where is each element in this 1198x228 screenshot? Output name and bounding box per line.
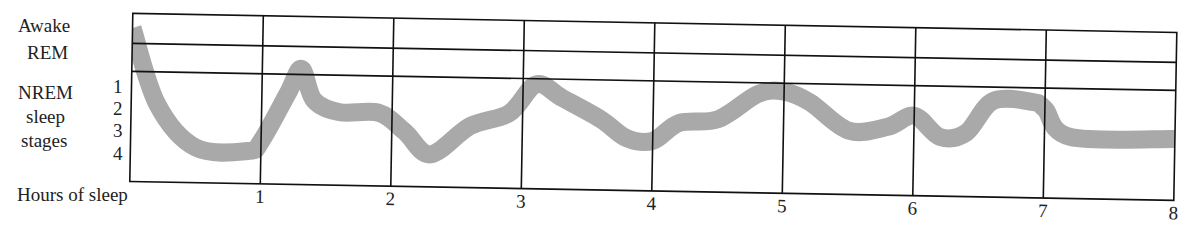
x-tick-label: 2 [385,188,395,209]
label-stage-2: 2 [113,98,123,119]
sleep-stages-chart: Awake REM NREM sleep stages 1 2 3 4 Hour… [0,0,1198,228]
plot-area: 12345678 [129,13,1181,223]
x-tick-label: 5 [777,195,787,216]
label-stage-4: 4 [113,143,123,164]
x-tick-label: 8 [1168,202,1178,223]
x-tick-label: 7 [1038,200,1048,221]
label-stage-3: 3 [113,120,123,141]
x-tick-label: 1 [255,186,265,207]
x-tick-label: 3 [516,190,526,211]
label-nrem: NREM [18,82,73,103]
hour-gridline [652,23,655,191]
hour-gridline [782,25,785,193]
hour-gridline [260,16,263,184]
label-awake: Awake [18,15,70,36]
label-stage-1: 1 [113,76,123,97]
label-stages: stages [21,130,67,151]
x-tick-label: 6 [907,198,917,219]
x-tick-label: 4 [646,193,656,214]
label-sleep: sleep [26,106,65,127]
hour-gridline [391,18,394,186]
label-rem: REM [27,42,68,63]
x-axis-title: Hours of sleep [17,184,128,205]
